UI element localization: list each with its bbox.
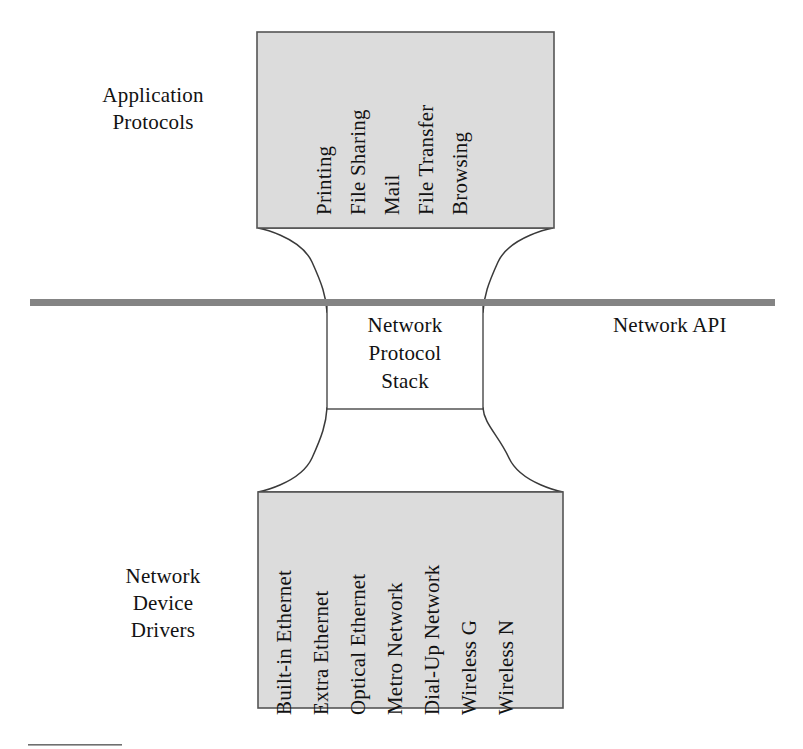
footer-rule [28, 744, 122, 746]
network-api-bar [30, 299, 775, 306]
device-driver-item-extra-ethernet: Extra Ethernet [309, 590, 334, 715]
device-driver-item-dial-up-network: Dial-Up Network [420, 564, 445, 715]
device-driver-item-wireless-n: Wireless N [494, 620, 519, 715]
device-driver-item-metro-network: Metro Network [383, 582, 408, 715]
app-protocol-item-printing: Printing [312, 146, 337, 215]
network-api-label: Network API [613, 313, 727, 338]
lower-flare-shape [258, 408, 563, 492]
app-protocol-item-mail: Mail [380, 175, 405, 215]
device-driver-item-optical-ethernet: Optical Ethernet [346, 574, 371, 715]
network-protocol-stack-label: Network Protocol Stack [327, 312, 483, 396]
app-protocol-item-file-sharing: File Sharing [346, 109, 371, 215]
app-protocol-item-file-transfer: File Transfer [414, 104, 439, 215]
application-protocols-title: Application Protocols [53, 82, 253, 136]
hourglass-diagram: Application Protocols Network Device Dri… [0, 0, 803, 749]
app-protocol-item-browsing: Browsing [448, 132, 473, 215]
network-device-drivers-title: Network Device Drivers [63, 563, 263, 644]
application-protocols-box [257, 32, 554, 228]
device-driver-item-built-in-ethernet: Built-in Ethernet [272, 570, 297, 715]
device-driver-item-wireless-g: Wireless G [457, 620, 482, 715]
